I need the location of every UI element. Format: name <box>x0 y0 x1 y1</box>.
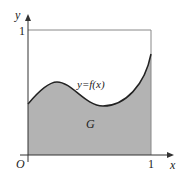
curve-label: y=f(x) <box>76 78 105 91</box>
y-tick-1: 1 <box>19 24 25 38</box>
y-axis-label: y <box>14 8 21 22</box>
figure: y 1 O 1 x y=f(x) G <box>0 0 183 178</box>
origin-label: O <box>16 157 25 171</box>
region-g <box>28 54 151 155</box>
y-axis-arrow-icon <box>25 14 31 21</box>
x-tick-1: 1 <box>148 157 154 171</box>
x-axis-label: x <box>169 158 176 172</box>
region-label: G <box>86 117 95 131</box>
